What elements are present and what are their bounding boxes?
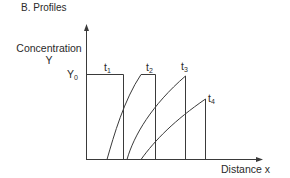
x-axis-arrow-icon [256,157,263,162]
profile-t3 [127,76,186,160]
profile-t4 [141,99,206,160]
profile-t1 [87,75,124,160]
y-axis-arrow-icon [84,24,89,31]
profiles-diagram [0,0,290,178]
